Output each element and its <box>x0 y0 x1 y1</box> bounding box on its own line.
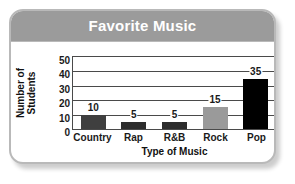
chart-card: Favorite Music Number of Students 504030… <box>9 9 276 164</box>
y-axis-tick-50: 50 <box>40 56 70 66</box>
bar-pop[interactable]: 35 <box>243 79 268 129</box>
bar-slot: 10 <box>73 57 114 129</box>
x-axis-tick-pop: Pop <box>236 132 276 144</box>
x-axis-title: Type of Music <box>72 146 276 157</box>
x-axis-tick-r-b: R&B <box>154 132 195 144</box>
bar-country[interactable]: 10 <box>81 115 106 129</box>
x-axis-tick-rap: Rap <box>113 132 154 144</box>
bar-value-label: 35 <box>249 66 262 77</box>
bars-group: 10551535 <box>73 57 276 129</box>
bar-value-label: 15 <box>209 94 222 105</box>
bar-slot: 5 <box>154 57 195 129</box>
bar-r-b[interactable]: 5 <box>162 122 187 129</box>
bar-rap[interactable]: 5 <box>121 122 146 129</box>
y-axis-tick-labels: 50403020100 <box>40 51 70 135</box>
bar-rock[interactable]: 15 <box>203 107 228 129</box>
y-axis-tick-40: 40 <box>40 70 70 80</box>
x-axis-tick-rock: Rock <box>195 132 236 144</box>
y-axis-title: Number of Students <box>13 55 39 131</box>
bar-value-label: 5 <box>130 109 138 120</box>
x-axis-tick-country: Country <box>72 132 113 144</box>
x-axis-tick-labels: CountryRapR&BRockPop <box>72 132 276 144</box>
y-axis-title-line-1: Number of <box>15 68 26 118</box>
y-axis-tick-10: 10 <box>40 114 70 124</box>
y-axis-title-line-2: Students <box>26 72 37 115</box>
bar-value-label: 5 <box>171 109 179 120</box>
bar-slot: 5 <box>114 57 155 129</box>
y-axis-tick-30: 30 <box>40 85 70 95</box>
bar-value-label: 10 <box>87 102 100 113</box>
bar-slot: 35 <box>235 57 276 129</box>
chart-title-band: Favorite Music <box>11 11 274 42</box>
y-axis-tick-0: 0 <box>40 128 70 138</box>
chart-title: Favorite Music <box>11 11 274 42</box>
y-axis-tick-20: 20 <box>40 99 70 109</box>
plot-area: 10551535 <box>72 56 276 130</box>
bar-slot: 15 <box>195 57 236 129</box>
